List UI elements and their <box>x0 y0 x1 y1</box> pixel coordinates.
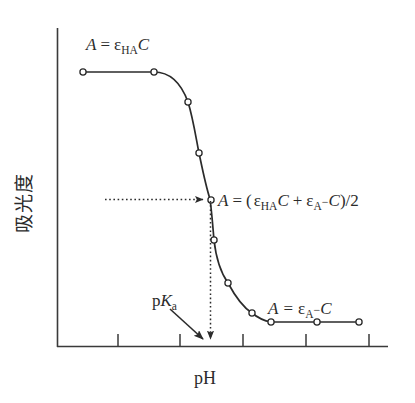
annotation-midpoint: A=(εHAC+εA−C)/2 <box>217 191 359 212</box>
data-point <box>249 310 255 316</box>
lower-epsilon: ε <box>298 299 305 318</box>
y-axis-title: 吸光度 <box>13 173 35 233</box>
lower-equals: = <box>283 299 293 318</box>
lower-A: A <box>267 299 279 318</box>
mid-divide-two: /2 <box>346 191 359 210</box>
mid-plus: + <box>293 191 303 210</box>
data-point <box>80 69 86 75</box>
data-point <box>185 99 191 105</box>
x-axis-ticks <box>118 334 369 346</box>
upper-equals: = <box>100 35 110 54</box>
mid-open-paren: ( <box>246 191 252 210</box>
annotation-upper-plateau: A=εHAC <box>85 35 150 56</box>
chart-canvas: A=εHAC A=(εHAC+εA−C)/2 A=εA−C pKa pH 吸光度 <box>0 0 415 403</box>
data-point <box>151 69 157 75</box>
data-point <box>268 319 274 325</box>
mid-C-2: C <box>329 191 341 210</box>
mid-A: A <box>217 191 229 210</box>
pka-a-subscript: a <box>172 300 177 312</box>
annotation-pka: pKa <box>152 291 177 312</box>
mid-C-1: C <box>277 191 289 210</box>
lower-C: C <box>320 299 332 318</box>
mid-equals: = <box>232 191 242 210</box>
data-point <box>196 150 202 156</box>
pka-p: p <box>152 291 161 310</box>
data-point <box>225 280 231 286</box>
x-axis-title: pH <box>194 368 216 388</box>
upper-epsilon: ε <box>114 35 121 54</box>
pka-pointer-arrow <box>170 309 203 339</box>
data-point <box>211 237 217 243</box>
mid-epsilon-2: ε <box>306 191 313 210</box>
upper-A: A <box>85 35 97 54</box>
axis-lines <box>57 28 388 347</box>
mid-epsilon-1: ε <box>254 191 261 210</box>
upper-C: C <box>138 35 150 54</box>
data-point <box>314 319 320 325</box>
upper-epsilon-subscript: HA <box>121 44 138 56</box>
mid-epsilon-1-subscript: HA <box>261 200 278 212</box>
annotation-lower-plateau: A=εA−C <box>267 299 332 320</box>
absorbance-ph-figure: A=εHAC A=(εHAC+εA−C)/2 A=εA−C pKa pH 吸光度 <box>0 0 415 403</box>
data-point <box>356 319 362 325</box>
